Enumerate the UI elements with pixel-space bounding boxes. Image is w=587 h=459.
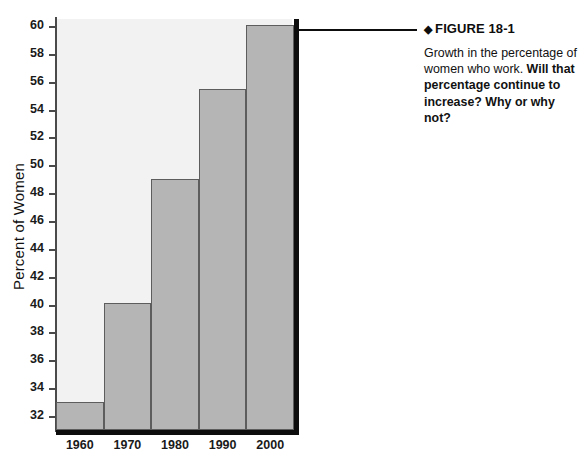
x-tick-label-1970: 1970 xyxy=(104,438,152,452)
y-tick-label: 40 xyxy=(30,297,44,311)
y-tick-mark xyxy=(49,416,56,418)
y-tick-mark xyxy=(49,360,56,362)
x-tick-label-1960: 1960 xyxy=(56,438,104,452)
y-tick-label: 32 xyxy=(30,408,44,422)
y-axis-line xyxy=(55,17,57,432)
figure-18-1: Percent of Women 32343638404244464850525… xyxy=(0,0,587,459)
caption-leader-line xyxy=(299,29,417,31)
y-tick-label: 60 xyxy=(30,18,44,32)
y-tick-mark xyxy=(49,249,56,251)
diamond-icon: ◆ xyxy=(424,23,432,35)
y-tick-label: 48 xyxy=(30,185,44,199)
y-tick-label: 38 xyxy=(30,324,44,338)
y-tick-label: 58 xyxy=(30,46,44,60)
y-tick-mark xyxy=(49,221,56,223)
figure-caption: ◆FIGURE 18-1 Growth in the percentage of… xyxy=(424,21,584,126)
y-tick-mark xyxy=(49,137,56,139)
y-tick-label: 52 xyxy=(30,129,44,143)
bar-1960 xyxy=(56,402,104,430)
bar-chart: Percent of Women 32343638404244464850525… xyxy=(0,0,400,459)
x-tick-label-2000: 2000 xyxy=(246,438,294,452)
y-tick-label: 36 xyxy=(30,352,44,366)
caption-heading-label: FIGURE 18-1 xyxy=(435,21,515,36)
y-tick-label: 42 xyxy=(30,269,44,283)
clipped-footer-text xyxy=(78,454,378,459)
y-tick-mark xyxy=(49,193,56,195)
y-tick-mark xyxy=(49,332,56,334)
y-tick-mark xyxy=(49,305,56,307)
y-tick-mark xyxy=(49,277,56,279)
bar-2000 xyxy=(246,25,294,430)
x-axis-line xyxy=(56,430,299,435)
y-tick-label: 34 xyxy=(30,380,44,394)
x-tick-label-1990: 1990 xyxy=(199,438,247,452)
bar-1980 xyxy=(151,179,199,430)
y-tick-mark xyxy=(49,82,56,84)
x-tick-label-1980: 1980 xyxy=(151,438,199,452)
y-tick-label: 46 xyxy=(30,213,44,227)
bar-1990 xyxy=(199,89,247,430)
y-tick-label: 54 xyxy=(30,102,44,116)
y-tick-label: 44 xyxy=(30,241,44,255)
caption-body: Growth in the percentage of women who wo… xyxy=(424,45,584,126)
y-axis-title: Percent of Women xyxy=(10,147,27,307)
y-tick-mark xyxy=(49,388,56,390)
y-tick-label: 56 xyxy=(30,74,44,88)
bar-1970 xyxy=(104,303,152,430)
y-tick-mark xyxy=(49,26,56,28)
y-tick-mark xyxy=(49,110,56,112)
caption-heading: ◆FIGURE 18-1 xyxy=(424,21,584,36)
y-tick-label: 50 xyxy=(30,157,44,171)
y-tick-mark xyxy=(49,165,56,167)
y-tick-mark xyxy=(49,54,56,56)
right-axis-line xyxy=(294,19,299,435)
